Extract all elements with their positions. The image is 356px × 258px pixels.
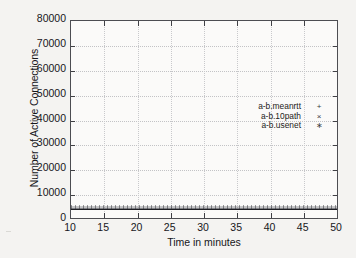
x-tick-mark <box>171 213 172 218</box>
x-tick-label: 15 <box>88 221 118 233</box>
series-point-speckle <box>71 205 337 210</box>
y-tick-mark <box>71 71 75 72</box>
x-tick-label: 50 <box>321 221 351 233</box>
x-tick-mark <box>138 21 139 26</box>
x-tick-label: 35 <box>221 221 251 233</box>
x-tick-label: 45 <box>288 221 318 233</box>
y-tick-mark <box>333 170 337 171</box>
y-tick-label: 10000 <box>18 187 66 198</box>
y-tick-mark <box>71 170 75 171</box>
y-tick-label: 30000 <box>18 137 66 148</box>
y-tick-label: 40000 <box>18 113 66 124</box>
y-tick-label: 70000 <box>18 38 66 49</box>
plot-area: a-b.meanrtt + a-b.10path × a-b.usenet ∗ <box>70 20 338 219</box>
x-tick-mark <box>171 21 172 26</box>
x-tick-label: 25 <box>155 221 185 233</box>
x-tick-label: 20 <box>122 221 152 233</box>
x-tick-mark <box>104 21 105 26</box>
gridline-vertical <box>171 21 172 218</box>
x-tick-mark <box>104 213 105 218</box>
x-tick-mark <box>138 213 139 218</box>
y-tick-mark <box>333 145 337 146</box>
x-tick-mark <box>237 21 238 26</box>
x-axis-title: Time in minutes <box>70 236 338 248</box>
x-tick-label: 30 <box>188 221 218 233</box>
legend-item-a-b-usenet: a-b.usenet ∗ <box>229 121 327 131</box>
x-axis-tick-labels: 10 15 20 25 30 35 40 45 50 <box>70 221 338 235</box>
x-tick-mark <box>271 21 272 26</box>
chart-figure: Number of Active Connections 80000 70000… <box>0 0 356 258</box>
y-tick-label: 80000 <box>18 13 66 24</box>
y-tick-mark <box>333 46 337 47</box>
y-tick-mark <box>333 71 337 72</box>
x-tick-label: 40 <box>255 221 285 233</box>
y-tick-mark <box>333 121 337 122</box>
y-tick-mark <box>71 195 75 196</box>
y-axis-tick-labels: 80000 70000 60000 50000 40000 30000 2000… <box>18 13 66 226</box>
y-tick-label: 20000 <box>18 162 66 173</box>
cross-marker-icon: × <box>313 112 325 122</box>
y-tick-mark <box>71 96 75 97</box>
x-tick-mark <box>204 213 205 218</box>
gridline-vertical <box>104 21 105 218</box>
x-tick-mark <box>304 21 305 26</box>
x-tick-label: 10 <box>55 221 85 233</box>
gridline-vertical <box>204 21 205 218</box>
y-tick-mark <box>333 195 337 196</box>
y-tick-mark <box>71 46 75 47</box>
chart-legend: a-b.meanrtt + a-b.10path × a-b.usenet ∗ <box>229 102 327 131</box>
y-tick-mark <box>333 96 337 97</box>
y-tick-label: 50000 <box>18 88 66 99</box>
x-tick-mark <box>304 213 305 218</box>
y-tick-mark <box>71 121 75 122</box>
x-tick-mark <box>237 213 238 218</box>
gridline-vertical <box>138 21 139 218</box>
asterisk-marker-icon: ∗ <box>313 121 325 131</box>
plus-marker-icon: + <box>313 102 325 112</box>
y-tick-label: 60000 <box>18 63 66 74</box>
y-tick-mark <box>71 145 75 146</box>
x-tick-mark <box>271 213 272 218</box>
x-tick-mark <box>204 21 205 26</box>
scan-artifact <box>6 231 11 232</box>
legend-label: a-b.usenet <box>261 121 301 131</box>
